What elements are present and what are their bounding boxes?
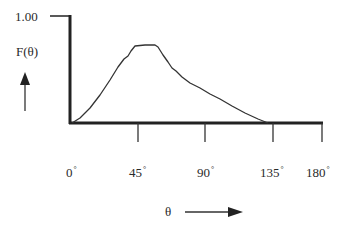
x-tick-label-180: 180°	[306, 166, 330, 179]
y-max-label: 1.00	[15, 10, 38, 23]
y-axis-label: F(θ)	[16, 45, 38, 58]
chart: 1.00 F(θ) θ 0° 45° 90° 135° 180°	[0, 0, 339, 232]
x-ticks	[138, 123, 322, 142]
x-tick-label-0: 0°	[66, 166, 77, 179]
x-tick-label-135: 135°	[260, 166, 284, 179]
x-tick-label-45: 45°	[129, 166, 146, 179]
chart-plot	[0, 0, 339, 232]
up-arrow-icon	[20, 72, 30, 85]
data-curve	[72, 45, 268, 123]
x-axis-label: θ	[165, 205, 171, 218]
x-tick-label-90: 90°	[197, 166, 214, 179]
right-arrow-icon	[228, 207, 243, 217]
